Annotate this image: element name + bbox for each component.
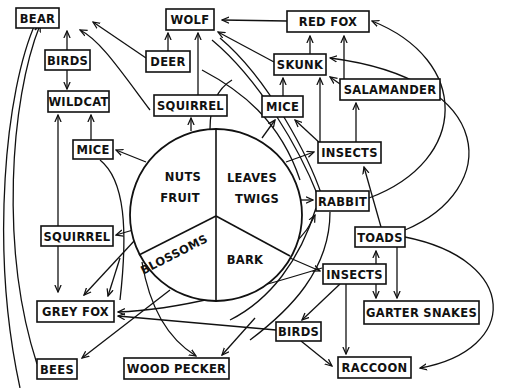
svg-text:BEAR: BEAR — [20, 12, 56, 26]
svg-text:MICE: MICE — [76, 143, 109, 157]
node-squirrel-left: SQUIRREL — [41, 226, 113, 246]
segment-leaves: LEAVES — [227, 171, 277, 185]
svg-text:WOOD PECKER: WOOD PECKER — [127, 362, 226, 376]
svg-text:BIRDS: BIRDS — [47, 54, 88, 68]
svg-text:DEER: DEER — [150, 55, 185, 69]
svg-text:RED FOX: RED FOX — [299, 15, 357, 29]
node-garter-snakes: GARTER SNAKES — [364, 301, 479, 324]
node-salamander: SALAMANDER — [340, 79, 440, 100]
edge-insects-woodpecker — [222, 318, 255, 355]
node-mice-top: MICE — [262, 96, 303, 117]
svg-text:SALAMANDER: SALAMANDER — [344, 83, 437, 97]
node-rabbit: RABBIT — [316, 191, 369, 211]
edge-salamander-skunk — [330, 77, 340, 84]
plant-food-circle: NUTS FRUIT LEAVES TWIGS BLOSSOMS BARK — [130, 129, 302, 301]
svg-text:GREY FOX: GREY FOX — [42, 305, 109, 319]
svg-text:GARTER SNAKES: GARTER SNAKES — [366, 306, 477, 320]
edge-center-greyfox2 — [108, 258, 120, 296]
svg-text:SQUIRREL: SQUIRREL — [44, 230, 111, 244]
node-skunk: SKUNK — [274, 54, 326, 75]
edge-greyfox-bear — [4, 22, 36, 388]
node-grey-fox: GREY FOX — [37, 301, 114, 322]
svg-text:TOADS: TOADS — [357, 231, 403, 245]
food-web-diagram: NUTS FRUIT LEAVES TWIGS BLOSSOMS BARK BE… — [0, 0, 506, 388]
node-raccoon: RACCOON — [338, 357, 411, 378]
svg-text:BIRDS: BIRDS — [278, 325, 319, 339]
edge-redfox-wolf — [222, 20, 287, 21]
node-insects-top: INSECTS — [318, 142, 381, 163]
svg-text:RACCOON: RACCOON — [342, 361, 408, 375]
edge-bees-bear — [13, 25, 40, 364]
edge-insects-birds — [302, 284, 340, 320]
node-deer: DEER — [146, 51, 190, 72]
edge-center-mice — [116, 150, 146, 162]
svg-text:SQUIRREL: SQUIRREL — [157, 99, 224, 113]
node-mice-left: MICE — [73, 140, 113, 159]
svg-text:SKUNK: SKUNK — [277, 58, 324, 72]
svg-text:BEES: BEES — [40, 363, 74, 377]
svg-text:WILDCAT: WILDCAT — [48, 95, 108, 109]
node-squirrel-top: SQUIRREL — [154, 95, 227, 116]
node-wildcat: WILDCAT — [48, 91, 109, 112]
node-bees: BEES — [37, 359, 77, 379]
svg-text:RABBIT: RABBIT — [318, 195, 367, 209]
node-red-fox: RED FOX — [287, 11, 369, 32]
svg-text:INSECTS: INSECTS — [326, 268, 383, 282]
svg-text:WOLF: WOLF — [171, 13, 210, 27]
edge-skunk-wolf — [218, 32, 274, 62]
edge-rabbit-redfox — [369, 21, 445, 198]
node-insects-bottom: INSECTS — [323, 264, 386, 284]
segment-nuts: NUTS — [165, 170, 201, 184]
node-birds-top: BIRDS — [45, 50, 90, 70]
node-toads: TOADS — [355, 227, 405, 247]
node-birds-bottom: BIRDS — [276, 322, 321, 341]
node-bear: BEAR — [16, 8, 59, 28]
edge-center-greyfox1 — [84, 240, 135, 295]
svg-text:MICE: MICE — [266, 100, 299, 114]
edge-birds-greyfox — [118, 316, 276, 330]
node-wolf: WOLF — [166, 9, 214, 30]
svg-text:INSECTS: INSECTS — [321, 146, 378, 160]
edge-birds-raccoon — [301, 341, 332, 366]
segment-fruit: FRUIT — [160, 191, 200, 205]
segment-bark: BARK — [227, 253, 264, 267]
edge-deer-bear — [93, 22, 146, 58]
segment-twigs: TWIGS — [235, 192, 279, 206]
node-wood-pecker: WOOD PECKER — [124, 358, 229, 379]
